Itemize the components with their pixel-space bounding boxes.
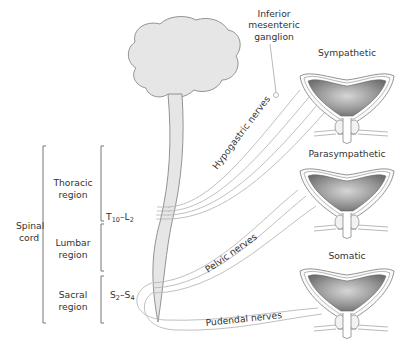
inferior-mesenteric-ganglion — [274, 93, 279, 98]
bladder-parasympathetic — [300, 169, 394, 239]
bracket-s2-s4 — [101, 276, 104, 323]
bladder-innervation-diagram: Sympathetic Parasympathetic Somatic Infe… — [0, 0, 397, 346]
label-lumbar-region: region — [58, 249, 87, 260]
bladder-somatic — [300, 269, 394, 339]
label-ganglion: ganglion — [254, 31, 294, 42]
label-sympathetic: Sympathetic — [318, 47, 376, 58]
label-sacral: Sacral — [59, 289, 87, 300]
label-lumbar: Lumbar — [56, 237, 91, 248]
label-spinal: Spinal — [16, 220, 44, 231]
bracket-spinal-cord — [43, 146, 46, 323]
label-s2-s4: S2–S4 — [110, 289, 135, 302]
label-thoracic: Thoracic — [52, 177, 92, 188]
label-cord: cord — [19, 232, 39, 243]
label-t10-l2: T10–L2 — [105, 211, 134, 224]
label-somatic: Somatic — [328, 250, 365, 261]
label-parasympathetic: Parasympathetic — [308, 148, 385, 159]
label-pudendal-nerves: Pudendal nerves — [205, 309, 283, 328]
label-mesenteric: mesenteric — [248, 19, 300, 30]
label-thoracic-region: region — [58, 189, 87, 200]
bracket-lumbar — [101, 224, 104, 271]
bracket-t10-l2 — [101, 146, 104, 221]
label-sacral-region: region — [58, 301, 87, 312]
brain — [128, 17, 240, 98]
label-inferior: Inferior — [257, 8, 290, 19]
